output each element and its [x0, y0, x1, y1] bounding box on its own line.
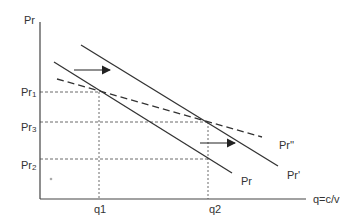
tick-pr1: Pr1 [21, 86, 37, 99]
x-axis-label: q=c/v [313, 193, 340, 205]
label-pr-prime: Pr' [287, 169, 300, 181]
diagram-canvas: Pr q=c/v Pr1 Pr3 Pr2 q1 q2 Pr Pr' Pr'' [0, 0, 360, 223]
stray-dot [50, 178, 53, 181]
label-pr: Pr [241, 175, 252, 187]
label-pr-double-prime: Pr'' [279, 139, 294, 151]
tick-q1: q1 [94, 203, 106, 215]
curve-pr [54, 62, 232, 173]
tick-pr3: Pr3 [21, 121, 37, 134]
tick-pr2: Pr2 [21, 159, 37, 172]
y-axis-label: Pr [24, 14, 35, 26]
curve-pr-prime [81, 45, 278, 166]
tick-q2: q2 [209, 203, 221, 215]
